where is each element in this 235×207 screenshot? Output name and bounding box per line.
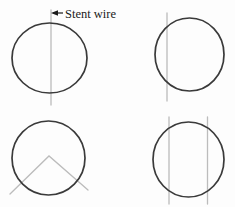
stent-ring	[155, 18, 224, 91]
stent-ring	[12, 23, 87, 93]
stent-wire-label: Stent wire	[65, 7, 116, 21]
stent-ring	[153, 122, 224, 197]
stent-wire-figure: Stent wire	[0, 0, 235, 207]
panel-top-right	[155, 13, 224, 101]
left-arrow-icon	[51, 10, 58, 15]
panel-bottom-left	[10, 121, 88, 195]
stent-diagram-svg: Stent wire	[0, 0, 235, 207]
stent-ring	[12, 121, 85, 195]
stent-wire-chevron	[10, 156, 88, 194]
panel-bottom-right	[153, 117, 224, 204]
panel-top-left: Stent wire	[12, 7, 116, 105]
